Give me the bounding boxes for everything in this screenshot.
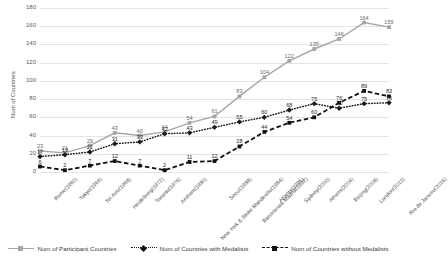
y-axis-tick-label: 0 — [14, 168, 36, 174]
data-point — [287, 121, 291, 125]
data-point — [312, 115, 316, 119]
y-axis-tick-label: 180 — [14, 4, 36, 10]
data-label: 17 — [37, 149, 43, 155]
x-axis-tick-label: Beijing(2008) — [352, 176, 379, 203]
data-label: 159 — [384, 19, 393, 25]
x-axis-tick-label: Arnhem(1980) — [179, 176, 208, 205]
data-point — [113, 131, 117, 135]
data-label: 76 — [336, 95, 342, 101]
data-point — [212, 125, 217, 130]
data-label: 104 — [260, 69, 269, 75]
data-point — [387, 25, 391, 29]
data-point — [237, 119, 242, 124]
legend-label-with-medalists: Num of Countries with Medalists — [160, 245, 249, 252]
data-point — [262, 115, 267, 120]
legend-item-without-medalists: Num of Countries without Medalists — [262, 245, 388, 252]
data-label: 6 — [38, 159, 41, 165]
data-label: 54 — [286, 115, 292, 121]
data-label: 49 — [211, 119, 217, 125]
x-axis-tick-label: Rio de Janeiro(2016) — [408, 176, 448, 216]
data-label: 83 — [386, 88, 392, 94]
data-label: 89 — [361, 83, 367, 89]
data-label: 55 — [236, 114, 242, 120]
data-label: 43 — [186, 125, 192, 131]
data-label: 122 — [285, 53, 294, 59]
legend-key-participant-icon — [8, 245, 34, 252]
y-axis-tick-label: 60 — [14, 113, 36, 119]
data-point — [312, 47, 316, 51]
data-point — [238, 145, 242, 149]
x-axis-tick-label: Rome(1960) — [53, 176, 78, 201]
data-point — [361, 101, 366, 106]
data-point — [38, 165, 42, 169]
gridline — [40, 172, 389, 173]
data-label: 43 — [112, 125, 118, 131]
chart-legend: Num of Participant Countries Num of Coun… — [0, 245, 397, 252]
series-line-0 — [40, 23, 389, 153]
data-label: 28 — [236, 138, 242, 144]
x-axis-tick-label: London(2012) — [378, 176, 406, 204]
data-point — [213, 159, 217, 163]
data-point — [287, 59, 291, 63]
data-label: 2 — [163, 162, 166, 168]
data-label: 33 — [137, 134, 143, 140]
plot-area: 2321294340445461831041221351461641591719… — [40, 8, 389, 172]
legend-key-without-medalists-icon — [262, 245, 288, 252]
data-point — [187, 130, 192, 135]
y-axis-tick-label: 20 — [14, 150, 36, 156]
y-axis-tick-label: 160 — [14, 22, 36, 28]
data-point — [188, 160, 192, 164]
y-axis-tick-label: 40 — [14, 132, 36, 138]
data-point — [336, 106, 341, 111]
data-label: 135 — [310, 41, 319, 47]
y-axis-tick-label: 80 — [14, 95, 36, 101]
data-label: 11 — [187, 154, 193, 160]
data-point — [287, 107, 292, 112]
data-label: 83 — [236, 88, 242, 94]
data-label: 70 — [336, 100, 342, 106]
data-point — [137, 139, 142, 144]
data-label: 7 — [88, 158, 91, 164]
data-label: 7 — [138, 158, 141, 164]
data-label: 54 — [186, 115, 192, 121]
data-label: 42 — [162, 126, 168, 132]
data-point — [362, 89, 366, 93]
data-point — [362, 21, 366, 25]
data-point — [163, 168, 167, 172]
data-label: 60 — [311, 109, 317, 115]
legend-item-with-medalists: Num of Countries with Medalists — [131, 245, 249, 252]
data-point — [87, 149, 92, 154]
data-point — [88, 164, 92, 168]
data-point — [112, 141, 117, 146]
data-point — [113, 159, 117, 163]
data-label: 12 — [211, 153, 217, 159]
data-label: 68 — [286, 102, 292, 108]
data-label: 61 — [211, 108, 217, 114]
data-label: 19 — [62, 147, 68, 153]
y-axis-tick-label: 120 — [14, 59, 36, 65]
data-label: 31 — [112, 136, 118, 142]
data-point — [213, 115, 217, 119]
data-label: 29 — [87, 138, 93, 144]
x-axis-tick-label: Seoul(1988) — [227, 176, 252, 201]
legend-label-participant: Num of Participant Countries — [37, 245, 116, 252]
data-label: 40 — [137, 128, 143, 134]
data-point — [238, 94, 242, 98]
data-label: 75 — [311, 96, 317, 102]
data-label: 75 — [361, 96, 367, 102]
legend-label-without-medalists: Num of Countries without Medalists — [291, 245, 388, 252]
data-label: 76 — [386, 95, 392, 101]
data-label: 12 — [112, 153, 118, 159]
x-axis-tick-label: Athens(2004) — [328, 176, 355, 203]
x-axis-tick-label: Tel Aviv(1968) — [104, 176, 132, 204]
y-axis-tick-label: 100 — [14, 77, 36, 83]
data-point — [386, 100, 391, 105]
data-label: 60 — [261, 109, 267, 115]
data-label: 2 — [63, 162, 66, 168]
data-label: 44 — [261, 124, 267, 130]
data-point — [262, 75, 266, 79]
data-label: 146 — [334, 31, 343, 37]
data-point — [312, 101, 317, 106]
data-point — [337, 37, 341, 41]
